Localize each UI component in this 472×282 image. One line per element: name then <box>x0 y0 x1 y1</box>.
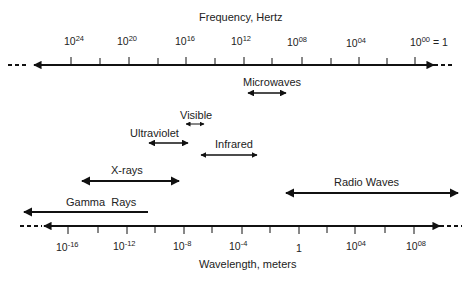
wavelength-tick-label: 1004 <box>346 240 366 252</box>
frequency-axis-line <box>8 57 454 65</box>
wavelength-tick-label: 1 <box>296 242 302 254</box>
frequency-tick-label: 1024 <box>64 35 84 47</box>
wavelength-tick-label: 10-12 <box>113 240 136 252</box>
microwaves-label: Microwaves <box>243 77 301 88</box>
radio-waves-label: Radio Waves <box>334 177 399 188</box>
visible-label: Visible <box>180 110 212 121</box>
wavelength-tick-label: 10-8 <box>173 240 191 252</box>
frequency-tick-label: 1008 <box>287 36 307 48</box>
x-rays-label: X-rays <box>111 165 143 176</box>
frequency-tick-label: 1016 <box>175 35 195 47</box>
wavelength-axis-line <box>20 226 462 234</box>
wavelength-tick-label: 10-4 <box>229 240 247 252</box>
infrared-label: Infrared <box>215 139 253 150</box>
frequency-axis-title: Frequency, Hertz <box>199 12 283 23</box>
frequency-tick-label: 1012 <box>231 35 251 47</box>
wavelength-axis-title: Wavelength, meters <box>199 259 296 270</box>
frequency-tick-label: 1020 <box>117 35 137 47</box>
wavelength-tick-label: 10-16 <box>56 241 79 253</box>
frequency-tick-label: 1004 <box>346 37 366 49</box>
gamma-rays-label: Gamma Rays <box>66 197 136 208</box>
wavelength-tick-label: 1008 <box>406 240 426 252</box>
frequency-tick-label: 1000 = 1 <box>410 36 448 48</box>
ultraviolet-label: Ultraviolet <box>130 128 179 139</box>
